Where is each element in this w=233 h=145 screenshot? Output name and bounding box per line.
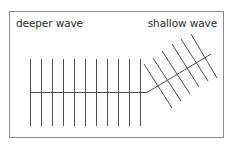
shallow-wavefront: [153, 58, 181, 101]
wave-refraction-drawing: [0, 0, 233, 145]
shallow-wavefront: [191, 34, 217, 78]
shallow-wavefront: [172, 44, 199, 87]
shallow-wavefronts: [144, 34, 217, 108]
shallow-wavefront: [162, 51, 190, 94]
shallow-wavefront: [181, 39, 208, 81]
wave-ray: [30, 54, 211, 93]
